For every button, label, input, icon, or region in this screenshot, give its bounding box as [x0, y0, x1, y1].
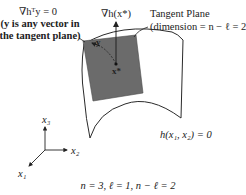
tangent-plane-label-line2: (dimension = n − ℓ = 2): [150, 21, 246, 33]
axis-x1-label: x₁: [17, 168, 26, 179]
caption: n = 3, ℓ = 1, n − ℓ = 2: [81, 180, 177, 191]
surface-equation-label: h(x₁, x₂) = 0: [160, 129, 212, 141]
axis-x3-label: x₃: [41, 114, 51, 125]
orthogonality-label-line1: ∇hᵀy = 0: [19, 6, 57, 17]
orthogonality-label-line3: the tangent plane): [0, 30, 81, 42]
orthogonality-label-line2: (y is any vector in: [0, 18, 79, 30]
gradient-label: ∇h(x*): [101, 8, 132, 20]
tangent-plane-diagram: x* y ∇hᵀy = 0 (y is any vector in the ta…: [0, 0, 246, 195]
point-x-star-label: x*: [112, 66, 122, 76]
axis-x2-label: x₂: [70, 145, 80, 156]
vector-y-label: y: [96, 37, 101, 47]
coordinate-axes: [29, 127, 67, 166]
tangent-plane-label-line1: Tangent Plane: [150, 8, 210, 19]
